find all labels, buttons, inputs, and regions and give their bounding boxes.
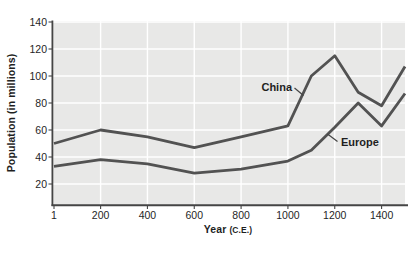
population-chart-figure: 20406080100120140 1200400600800100012001… (0, 0, 415, 256)
x-tick-label: 1200 (323, 209, 347, 221)
china-series-label: China (261, 81, 292, 93)
x-tick-label: 1400 (370, 209, 394, 221)
y-tick-label: 20 (35, 178, 47, 190)
y-tick-label: 40 (35, 151, 47, 163)
x-tick-label: 1000 (276, 209, 300, 221)
x-axis-title-main: Year (204, 223, 227, 235)
population-chart: 20406080100120140 1200400600800100012001… (0, 0, 415, 256)
y-tick-label: 140 (29, 16, 47, 28)
x-tick-label: 400 (139, 209, 157, 221)
x-tick-label: 600 (185, 209, 203, 221)
y-tick-label: 120 (29, 43, 47, 55)
y-tick-label: 80 (35, 97, 47, 109)
x-axis-title-unit: (C.E.) (229, 225, 252, 235)
europe-series-label: Europe (341, 136, 379, 148)
y-tick-label: 60 (35, 124, 47, 136)
x-tick-label: 800 (232, 209, 250, 221)
x-tick-label: 1 (51, 209, 57, 221)
y-axis-title: Population (in millions) (5, 54, 17, 172)
x-tick-label: 200 (92, 209, 110, 221)
y-tick-label: 100 (29, 70, 47, 82)
